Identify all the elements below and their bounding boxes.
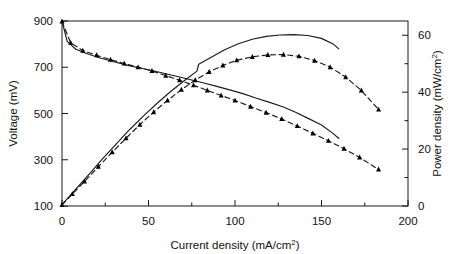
x-tick-label: 0 (59, 215, 65, 227)
series-marker-1 (94, 52, 99, 57)
x-tick-label: 150 (312, 215, 331, 227)
plot-frame (62, 21, 408, 206)
series-marker-3 (265, 52, 270, 57)
series-marker-1 (376, 167, 381, 172)
x-tick-label: 50 (142, 215, 155, 227)
y-left-tick-label: 700 (34, 61, 53, 73)
series-line-0 (62, 21, 339, 138)
figure-polarization-power-curves: 0501001502001003005007009000204060Curren… (0, 0, 456, 254)
y-left-tick-label: 100 (34, 200, 53, 212)
y-right-tick-label: 20 (418, 143, 431, 155)
series-marker-3 (151, 109, 156, 114)
series-marker-1 (80, 48, 85, 53)
series-line-3 (62, 55, 379, 205)
y-right-tick-label: 0 (418, 200, 424, 212)
chart-canvas: 0501001502001003005007009000204060Curren… (0, 0, 456, 254)
x-axis-title: Current density (mA/cm2) (170, 238, 299, 251)
y-right-axis-title: Power density (mW/cm2) (430, 50, 443, 177)
y-left-axis-title: Voltage (mV) (7, 80, 19, 147)
series-marker-3 (343, 74, 348, 79)
y-left-tick-label: 300 (34, 154, 53, 166)
series-line-2 (62, 35, 339, 205)
y-right-tick-label: 40 (418, 86, 431, 98)
y-left-tick-label: 900 (34, 15, 53, 27)
series-marker-3 (179, 87, 184, 92)
series-marker-3 (165, 98, 170, 103)
x-tick-label: 100 (225, 215, 244, 227)
y-left-tick-label: 500 (34, 108, 53, 120)
x-tick-label: 200 (398, 215, 417, 227)
y-right-tick-label: 60 (418, 29, 431, 41)
